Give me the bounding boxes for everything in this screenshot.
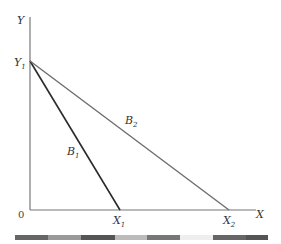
budget-line-b1 [30, 61, 120, 210]
x-axis-label: X [255, 208, 265, 221]
color-bar [15, 235, 268, 240]
b1-label: B1 [66, 145, 80, 160]
budget-line-b2 [30, 61, 229, 210]
color-bar-segment [213, 235, 246, 240]
x2-label: X2 [222, 214, 236, 229]
y-axis-label: Y [17, 14, 26, 27]
budget-line-diagram: Y Y1 0 X1 X2 X B1 B2 [0, 0, 281, 244]
color-bar-segment [15, 235, 48, 240]
y1-label: Y1 [14, 56, 26, 71]
color-bar-segment [115, 235, 147, 240]
color-bar-segment [48, 235, 81, 240]
b2-label: B2 [124, 114, 138, 129]
color-bar-segment [81, 235, 115, 240]
color-bar-segment [246, 235, 268, 240]
origin-label: 0 [18, 209, 24, 220]
x1-label: X1 [112, 214, 125, 229]
color-bar-segment [180, 235, 213, 240]
color-bar-segment [147, 235, 180, 240]
